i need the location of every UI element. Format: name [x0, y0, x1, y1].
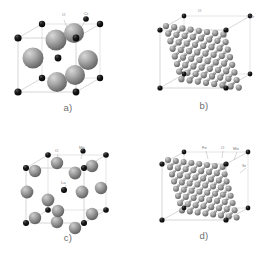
atom-label-a-0: O	[62, 12, 66, 17]
panel-b-caption: b)	[136, 100, 272, 111]
crystal-cell-b: O Cr	[136, 0, 272, 112]
atom-label-c-2: La	[61, 180, 66, 185]
panel-a-caption: a)	[0, 102, 136, 113]
crystal-cell-c: O Mn La	[0, 130, 136, 242]
atom-label-d-1: O	[221, 145, 225, 150]
crystal-cell-a: O Cr	[0, 0, 136, 112]
atoms-dense-d	[165, 157, 240, 220]
figure-root: O Cr a)	[0, 0, 272, 260]
panel-a: O Cr a)	[0, 0, 136, 130]
atoms-dense-b	[163, 23, 242, 91]
panel-d-stage: Fe O Mo Sr	[136, 130, 272, 242]
atom-label-d-3: Sr	[242, 163, 247, 168]
panel-b: O Cr b)	[136, 0, 272, 130]
atom-label-d-0: Fe	[202, 145, 208, 150]
panel-d-caption: d)	[136, 230, 272, 241]
atom-label-c-1: Mn	[79, 145, 85, 150]
atom-label-d-2: Mo	[233, 146, 239, 151]
panel-a-stage: O Cr	[0, 0, 136, 112]
panel-c: O Mn La c)	[0, 130, 136, 260]
panel-d: Fe O Mo Sr d)	[136, 130, 272, 260]
crystal-cell-d: Fe O Mo Sr	[136, 130, 272, 242]
atom-label-a-1: Cr	[84, 11, 89, 16]
panel-c-caption: c)	[0, 232, 136, 243]
atom-label-c-0: O	[55, 148, 59, 153]
panel-b-stage: O Cr	[136, 0, 272, 112]
atoms-gray-c	[21, 157, 108, 234]
atom-label-b-1: Cr	[250, 14, 255, 19]
atom-label-b-0: O	[198, 8, 202, 13]
panel-c-stage: O Mn La	[0, 130, 136, 242]
